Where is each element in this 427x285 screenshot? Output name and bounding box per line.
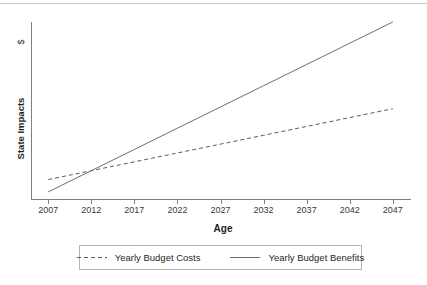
series-group	[48, 22, 393, 192]
chart-page: $ State Impacts Age 20072012201720222027…	[0, 0, 427, 285]
plot-area	[0, 0, 427, 285]
chart-legend: Yearly Budget Costs Yearly Budget Benefi…	[79, 245, 362, 270]
legend-swatch-solid-icon	[230, 253, 260, 262]
legend-entry-benefits: Yearly Budget Benefits	[230, 252, 364, 263]
series-line-yearly-budget-benefits	[48, 22, 393, 192]
series-line-yearly-budget-costs	[48, 109, 393, 180]
legend-label-costs: Yearly Budget Costs	[115, 252, 201, 263]
legend-label-benefits: Yearly Budget Benefits	[268, 252, 364, 263]
line-chart-figure: $ State Impacts Age 20072012201720222027…	[0, 0, 427, 285]
legend-entry-costs: Yearly Budget Costs	[77, 252, 201, 263]
legend-swatch-dashed-icon	[77, 253, 107, 262]
